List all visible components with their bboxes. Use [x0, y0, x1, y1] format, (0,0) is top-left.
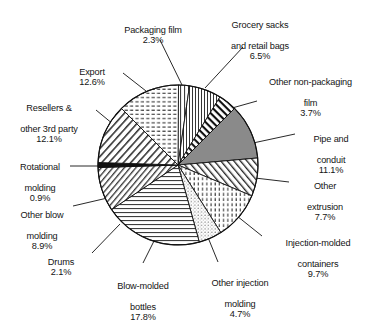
pie-label-blow-molded-bottles-line1: Blow-molded [117, 281, 168, 291]
pie-label-grocery-sacks-pct: 6.5% [205, 51, 315, 62]
pie-label-other-extrusion-pct: 7.7% [288, 212, 362, 223]
pie-label-packaging-film: Packaging film 2.3% [103, 14, 203, 56]
pie-label-drums-pct: 2.1% [31, 267, 91, 278]
pie-label-other-injection-molding-line1: Other injection [212, 278, 269, 288]
pie-label-packaging-film-text: Packaging film [124, 25, 182, 35]
pie-label-other-nonpackaging-film-line1: Other non-packaging [269, 77, 352, 87]
pie-label-resellers-third-party: Resellers & other 3rd party 12.1% [2, 92, 96, 156]
pie-label-export-pct: 12.6% [61, 77, 123, 88]
pie-label-other-extrusion-line1: Other [314, 181, 336, 191]
pie-label-other-extrusion: Other extrusion 7.7% [288, 170, 362, 234]
pie-label-other-blow-molding-line2: molding [26, 231, 57, 241]
pie-label-resellers-third-party-pct: 12.1% [2, 134, 96, 145]
pie-label-pipe-and-conduit-line2: conduit [317, 155, 346, 165]
pie-label-blow-molded-bottles: Blow-molded bottles 17.8% [96, 270, 190, 324]
pie-label-resellers-third-party-line1: Resellers & [26, 103, 71, 113]
pie-label-rotational-molding-line2: molding [24, 183, 55, 193]
pie-label-rotational-molding: Rotational molding 0.9% [6, 151, 74, 215]
leader-line-drums [92, 224, 120, 253]
pie-label-blow-molded-bottles-line2: bottles [130, 302, 156, 312]
pie-label-injection-molded-containers-line2: containers [298, 259, 339, 269]
pie-label-grocery-sacks: Grocery sacks and retail bags 6.5% [205, 9, 315, 73]
pie-label-other-nonpackaging-film: Other non-packaging film 3.7% [253, 66, 368, 130]
leader-line-export [123, 73, 146, 91]
pie-label-export: Export 12.6% [61, 56, 123, 98]
pie-label-blow-molded-bottles-pct: 17.8% [96, 312, 190, 323]
pie-label-other-nonpackaging-film-pct: 3.7% [253, 108, 368, 119]
pie-label-other-nonpackaging-film-line2: film [304, 98, 318, 108]
pie-label-other-injection-molding: Other injection molding 4.7% [190, 267, 290, 324]
pie-label-grocery-sacks-line1: Grocery sacks [232, 20, 289, 30]
pie-label-rotational-molding-pct: 0.9% [6, 193, 74, 204]
pie-label-resellers-third-party-line2: other 3rd party [20, 124, 78, 134]
pie-label-other-blow-molding-pct: 8.9% [6, 241, 78, 252]
pie-label-other-extrusion-line2: extrusion [307, 202, 343, 212]
leader-line-pipe-conduit [253, 134, 295, 143]
pie-label-grocery-sacks-line2: and retail bags [231, 41, 289, 51]
pie-label-export-text: Export [79, 67, 105, 77]
pie-label-rotational-molding-line1: Rotational [20, 162, 60, 172]
pie-label-injection-molded-containers-line1: Injection-molded [285, 238, 350, 248]
pie-label-packaging-film-pct: 2.3% [103, 35, 203, 46]
pie-label-other-injection-molding-pct: 4.7% [190, 309, 290, 320]
leader-line-other-extrusion [255, 178, 289, 182]
pie-label-pipe-and-conduit-line1: Pipe and [313, 134, 348, 144]
pie-slices-group [98, 85, 258, 245]
pie-label-other-injection-molding-line2: molding [224, 299, 255, 309]
